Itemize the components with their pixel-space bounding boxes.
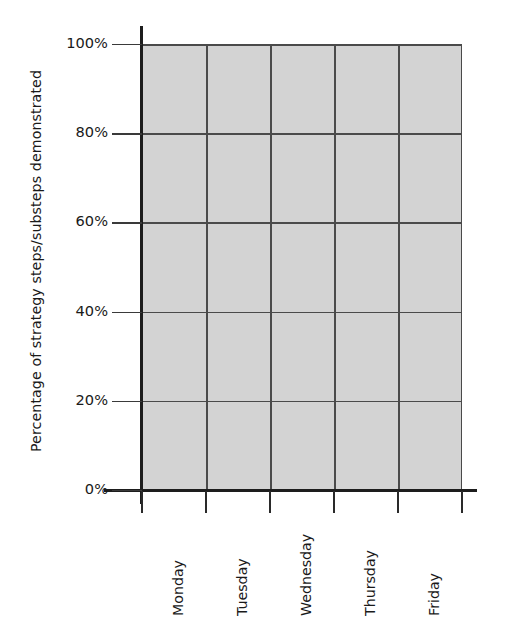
gridline-vertical-4 — [398, 44, 400, 490]
x-tick-label-friday: Friday — [424, 498, 444, 616]
gridline-vertical-2 — [270, 44, 272, 490]
y-axis-line — [140, 26, 143, 504]
gridline-vertical-1 — [206, 44, 208, 490]
y-tick-mark-40 — [112, 312, 142, 313]
y-tick-mark-20 — [112, 401, 142, 402]
x-tick-label-monday: Monday — [168, 498, 188, 616]
y-tick-mark-0 — [112, 490, 142, 491]
x-tick-label-slot-tuesday: Tuesday — [206, 498, 270, 618]
x-tick-label-wednesday: Wednesday — [296, 498, 316, 616]
x-tick-label-slot-wednesday: Wednesday — [270, 498, 334, 618]
plot-border-top — [142, 44, 462, 46]
x-tick-label-slot-monday: Monday — [142, 498, 206, 618]
gridline-horizontal-40 — [142, 312, 462, 314]
y-tick-label-40: 40% — [8, 304, 108, 319]
x-tick-label-slot-friday: Friday — [398, 498, 462, 618]
x-tick-label-thursday: Thursday — [360, 498, 380, 616]
y-tick-mark-100 — [112, 44, 142, 45]
y-tick-label-20: 20% — [8, 393, 108, 408]
y-tick-label-60: 60% — [8, 214, 108, 229]
gridline-horizontal-60 — [142, 222, 462, 224]
y-axis-title: Percentage of strategy steps/substeps de… — [16, 26, 56, 496]
gridline-horizontal-20 — [142, 401, 462, 403]
x-tick-label-tuesday: Tuesday — [232, 498, 252, 616]
y-tick-mark-60 — [112, 222, 142, 223]
x-tick-label-slot-thursday: Thursday — [334, 498, 398, 618]
gridline-vertical-3 — [334, 44, 336, 490]
x-axis-line — [104, 489, 477, 492]
y-tick-label-80: 80% — [8, 125, 108, 140]
plot-border-right — [461, 44, 463, 490]
y-tick-mark-80 — [112, 133, 142, 134]
y-tick-label-0: 0% — [8, 482, 108, 497]
chart-figure: Percentage of strategy steps/substeps de… — [0, 0, 513, 630]
gridline-horizontal-80 — [142, 133, 462, 135]
y-tick-label-100: 100% — [8, 36, 108, 51]
plot-area — [142, 44, 462, 490]
